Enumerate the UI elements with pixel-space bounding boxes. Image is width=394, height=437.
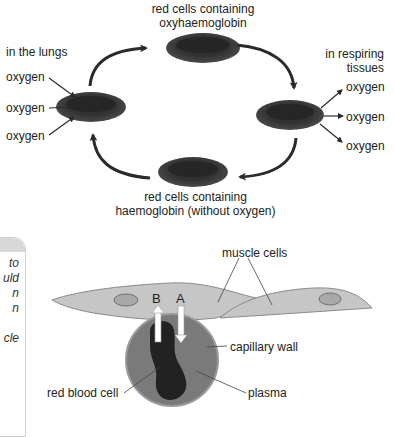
label-muscle-cells: muscle cells [222,246,287,260]
side-line: uld [0,271,19,286]
arrow-tissues-to-bottom [240,138,296,177]
side-line: n [0,286,19,301]
nucleus-right [319,293,341,305]
side-line: to [0,256,19,271]
label-in-respiring-tissues: in respiring tissues [300,47,384,75]
arrow-bottom-to-lungs [93,135,150,178]
label-line: red cells containing [108,190,283,204]
label-oxyhaemoglobin: red cells containing oxyhaemoglobin [128,2,278,30]
red-cell-bottom [158,157,228,187]
label-red-blood-cell: red blood cell [47,386,118,400]
label-capillary-wall: capillary wall [230,340,298,354]
label-b: B [152,292,161,306]
muscle-cell-right [220,288,372,318]
nucleus-left [114,294,138,306]
label-oxygen-right-3: oxygen [346,139,385,153]
label-oxygen-right-2: oxygen [346,110,385,124]
label-line: tissues [300,61,384,75]
label-line: haemoglobin (without oxygen) [108,204,283,218]
red-cell-right [256,100,324,130]
side-note-header [0,238,25,252]
side-line: cle [0,331,19,346]
label-haemoglobin: red cells containing haemoglobin (withou… [108,190,283,218]
label-oxygen-left-2: oxygen [6,101,45,115]
arrow-lungs-to-top [90,48,146,86]
label-in-the-lungs: in the lungs [6,45,67,59]
red-cell-top [166,33,240,63]
arrow-top-to-tissues [237,45,294,88]
label-line: red cells containing [128,2,278,16]
side-note-box: to uld n n cle [0,237,26,437]
label-a: A [176,292,185,306]
label-oxygen-left-3: oxygen [6,129,45,143]
label-line: oxyhaemoglobin [128,16,278,30]
side-line: n [0,301,19,316]
label-oxygen-right-1: oxygen [346,80,385,94]
label-plasma: plasma [248,386,287,400]
label-line: in respiring [300,47,384,61]
label-oxygen-left-1: oxygen [6,70,45,84]
side-note-text: to uld n n cle [0,256,25,346]
side-line-blank [0,316,19,331]
